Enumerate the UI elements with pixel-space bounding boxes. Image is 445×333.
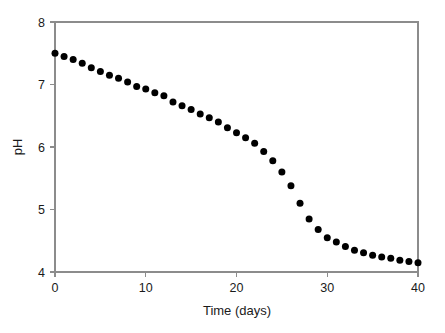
- chart-figure: 45678 010203040 Time (days) pH: [0, 0, 445, 333]
- data-point: [260, 148, 267, 155]
- data-point: [206, 114, 213, 121]
- y-axis-title: pH: [10, 139, 25, 156]
- data-point: [79, 60, 86, 67]
- data-point: [242, 134, 249, 141]
- data-point: [351, 247, 358, 254]
- x-axis-ticks: 010203040: [52, 272, 425, 295]
- data-point: [188, 106, 195, 113]
- data-point: [61, 53, 68, 60]
- data-point: [333, 239, 340, 246]
- y-tick-label: 5: [38, 203, 45, 217]
- data-point: [251, 140, 258, 147]
- data-point: [378, 254, 385, 261]
- axis-frame-path: [55, 22, 418, 272]
- data-point-series: [52, 50, 422, 266]
- data-point: [415, 259, 422, 266]
- data-point: [215, 119, 222, 126]
- data-point: [324, 234, 331, 241]
- x-tick-label: 0: [52, 281, 59, 295]
- x-tick-label: 40: [411, 281, 425, 295]
- data-point: [396, 257, 403, 264]
- x-tick-label: 20: [230, 281, 244, 295]
- data-point: [224, 124, 231, 131]
- data-point: [287, 182, 294, 189]
- data-point: [269, 157, 276, 164]
- data-point: [233, 129, 240, 136]
- data-point: [142, 85, 149, 92]
- x-tick-label: 30: [320, 281, 334, 295]
- data-point: [387, 255, 394, 262]
- data-point: [124, 79, 131, 86]
- data-point: [97, 68, 104, 75]
- data-point: [151, 89, 158, 96]
- data-point: [115, 75, 122, 82]
- data-point: [306, 215, 313, 222]
- ph-vs-time-scatter-plot: 45678 010203040 Time (days) pH: [0, 0, 445, 333]
- y-tick-label: 7: [38, 78, 45, 92]
- x-tick-label: 10: [139, 281, 153, 295]
- data-point: [179, 102, 186, 109]
- plot-frame: [55, 22, 418, 272]
- data-point: [70, 56, 77, 63]
- x-axis-title: Time (days): [203, 303, 271, 318]
- data-point: [160, 92, 167, 99]
- data-point: [342, 243, 349, 250]
- data-point: [133, 83, 140, 90]
- y-tick-label: 8: [38, 16, 45, 30]
- y-tick-label: 4: [38, 266, 45, 280]
- data-point: [278, 169, 285, 176]
- data-point: [169, 99, 176, 106]
- data-point: [360, 249, 367, 256]
- data-point: [197, 110, 204, 117]
- data-point: [52, 50, 59, 57]
- data-point: [88, 64, 95, 71]
- y-tick-label: 6: [38, 141, 45, 155]
- data-point: [106, 72, 113, 79]
- data-point: [405, 258, 412, 265]
- data-point: [315, 226, 322, 233]
- data-point: [369, 252, 376, 259]
- data-point: [297, 200, 304, 207]
